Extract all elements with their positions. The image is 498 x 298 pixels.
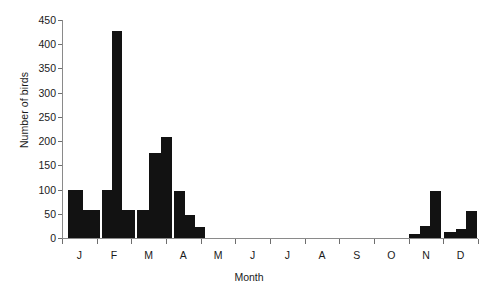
x-tick-mark — [305, 239, 306, 244]
x-tick-label: O — [381, 250, 401, 261]
x-tick-mark — [131, 239, 132, 244]
bar — [122, 210, 135, 238]
x-tick-mark — [478, 239, 479, 244]
bar — [456, 229, 466, 238]
bar — [195, 227, 205, 238]
x-tick-label: A — [312, 250, 332, 261]
bar — [466, 211, 477, 238]
x-tick-mark — [409, 239, 410, 244]
y-tick-label: 400 — [28, 39, 56, 50]
x-axis-title: Month — [0, 271, 498, 283]
y-tick-label: 150 — [28, 160, 56, 171]
bar — [185, 215, 195, 238]
y-tick-label: 200 — [28, 136, 56, 147]
x-tick-mark — [235, 239, 236, 244]
x-tick-mark — [443, 239, 444, 244]
bar — [112, 31, 122, 238]
bar-chart: Number of birds 050100150200250300350400… — [0, 0, 498, 298]
x-tick-label: F — [104, 250, 124, 261]
x-tick-label: J — [69, 250, 89, 261]
bar — [161, 137, 172, 238]
bar — [444, 232, 456, 238]
x-tick-label: S — [347, 250, 367, 261]
x-tick-label: D — [451, 250, 471, 261]
x-tick-mark — [166, 239, 167, 244]
x-tick-label: N — [416, 250, 436, 261]
x-tick-mark — [201, 239, 202, 244]
y-tick-label: 300 — [28, 88, 56, 99]
x-tick-mark — [270, 239, 271, 244]
x-tick-label: M — [139, 250, 159, 261]
y-axis-line — [62, 20, 63, 238]
x-tick-mark — [62, 239, 63, 244]
bar — [68, 190, 83, 238]
bar — [430, 191, 441, 238]
y-tick-label: 250 — [28, 112, 56, 123]
y-tick-label: 450 — [28, 15, 56, 26]
bar — [174, 191, 185, 238]
bar — [102, 190, 112, 238]
y-axis-title: Number of birds — [18, 40, 30, 180]
x-tick-mark — [339, 239, 340, 244]
y-tick-label: 100 — [28, 185, 56, 196]
bar — [149, 153, 161, 238]
bar — [409, 234, 420, 238]
y-tick-label: 0 — [28, 233, 56, 244]
x-tick-label: M — [208, 250, 228, 261]
x-tick-mark — [374, 239, 375, 244]
y-tick-label: 50 — [28, 209, 56, 220]
x-tick-label: J — [277, 250, 297, 261]
y-tick-label: 350 — [28, 63, 56, 74]
bar — [420, 226, 430, 238]
bar — [83, 210, 100, 238]
x-tick-mark — [97, 239, 98, 244]
x-tick-label: A — [173, 250, 193, 261]
x-tick-label: J — [243, 250, 263, 261]
bar — [137, 210, 149, 238]
